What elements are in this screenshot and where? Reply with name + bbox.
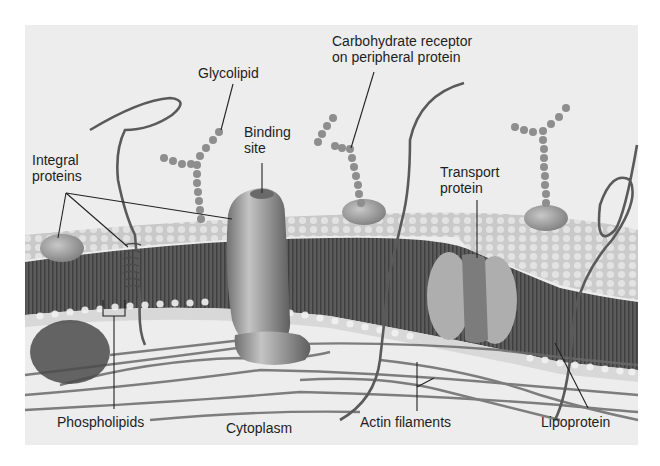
- peripheral-bump-left: [40, 234, 84, 262]
- membrane-illustration: [0, 0, 660, 466]
- label-transport-protein-line2: protein: [440, 180, 499, 196]
- label-glycolipid: Glycolipid: [198, 65, 259, 81]
- label-integral-proteins-line2: proteins: [32, 168, 82, 184]
- label-cytoplasm: Cytoplasm: [226, 420, 292, 436]
- label-carbohydrate-receptor-line2: on peripheral protein: [332, 49, 472, 65]
- label-binding-site: Binding site: [244, 124, 291, 156]
- transport-protein: [427, 252, 517, 344]
- peripheral-protein-left: [30, 320, 110, 384]
- label-actin-filaments: Actin filaments: [360, 414, 451, 430]
- label-carbohydrate-receptor: Carbohydrate receptor on peripheral prot…: [332, 33, 472, 65]
- label-lipoprotein: Lipoprotein: [541, 414, 610, 430]
- label-transport-protein-line1: Transport: [440, 164, 499, 180]
- label-binding-site-line2: site: [244, 140, 291, 156]
- membrane-figure: Glycolipid Carbohydrate receptor on peri…: [0, 0, 660, 466]
- peripheral-bump-right: [524, 205, 568, 231]
- label-carbohydrate-receptor-line1: Carbohydrate receptor: [332, 33, 472, 49]
- label-binding-site-line1: Binding: [244, 124, 291, 140]
- label-transport-protein: Transport protein: [440, 164, 499, 196]
- label-integral-proteins-line1: Integral: [32, 152, 82, 168]
- label-integral-proteins: Integral proteins: [32, 152, 82, 184]
- label-phospholipids: Phospholipids: [57, 414, 144, 430]
